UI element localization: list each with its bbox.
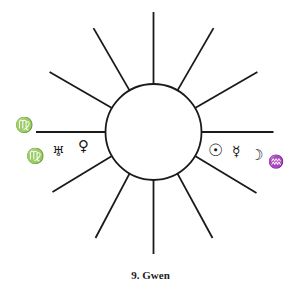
- virgo-icon: ♍: [26, 149, 45, 164]
- ray-300: [178, 174, 213, 238]
- ray-330: [195, 156, 256, 193]
- virgo-icon: ♍: [15, 118, 34, 133]
- ray-60: [178, 28, 214, 90]
- moon-icon: ☽: [250, 148, 263, 163]
- venus-icon: ♀: [78, 139, 89, 154]
- aquarius-icon: ♒: [268, 155, 284, 168]
- ray-120: [94, 28, 130, 90]
- sun-icon: ☉: [208, 142, 223, 159]
- figure-caption: 9. Gwen: [0, 269, 301, 281]
- ray-30: [195, 72, 257, 108]
- ray-210: [53, 156, 112, 192]
- ray-150: [50, 72, 112, 108]
- uranus-icon: ♅: [52, 144, 65, 158]
- mercury-icon: ☿: [232, 144, 241, 158]
- ray-240: [96, 174, 130, 238]
- center-circle: [106, 84, 202, 180]
